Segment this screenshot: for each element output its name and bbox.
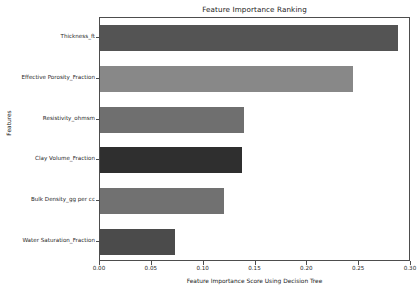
x-tick-label-5: 0.20	[300, 265, 312, 271]
x-tick-mark-1	[99, 261, 100, 265]
bar-fill	[100, 66, 353, 92]
x-tick-label-6: 0.25	[352, 265, 364, 271]
x-tick-mark-5	[306, 261, 307, 265]
y-axis-label: Features	[6, 93, 12, 153]
x-tick-label-4: 0.15	[248, 265, 260, 271]
bar-6[interactable]	[100, 229, 175, 255]
y-tick-label-3: Resistivity_ohmsm	[43, 116, 95, 122]
x-tick-mark-7	[410, 261, 411, 265]
plot-area	[99, 17, 410, 261]
matplotlib-figure: Feature Importance Ranking Feature Impor…	[0, 0, 420, 297]
y-tick-mark-6	[96, 241, 100, 242]
y-tick-mark-2	[96, 78, 100, 79]
bar-2[interactable]	[100, 66, 353, 92]
y-tick-label-6: Water Saturation_Fraction	[22, 238, 95, 244]
x-tick-label-1: 0.00	[93, 265, 105, 271]
bar-1[interactable]	[100, 25, 398, 51]
bar-3[interactable]	[100, 107, 244, 133]
bar-fill	[100, 188, 224, 214]
y-tick-label-1: Thickness_ft	[60, 34, 95, 40]
x-tick-label-7: 0.30	[404, 265, 416, 271]
chart-title: Feature Importance Ranking	[99, 5, 410, 14]
bar-fill	[100, 25, 398, 51]
bar-fill	[100, 107, 244, 133]
x-tick-mark-3	[203, 261, 204, 265]
y-tick-mark-5	[96, 200, 100, 201]
x-tick-label-3: 0.10	[196, 265, 208, 271]
y-tick-mark-1	[96, 37, 100, 38]
x-axis-label: Feature Importance Score Using Decision …	[99, 278, 410, 284]
x-tick-mark-6	[358, 261, 359, 265]
y-tick-label-5: Bulk Density_gg per cc	[31, 197, 95, 203]
bar-4[interactable]	[100, 147, 242, 173]
x-tick-mark-4	[255, 261, 256, 265]
bar-5[interactable]	[100, 188, 224, 214]
x-tick-label-2: 0.05	[145, 265, 157, 271]
y-tick-label-4: Clay Volume_Fraction	[35, 156, 95, 162]
y-tick-label-2: Effective Porosity_Fraction	[22, 75, 95, 81]
bar-fill	[100, 147, 242, 173]
bar-fill	[100, 229, 175, 255]
x-tick-mark-2	[151, 261, 152, 265]
y-tick-mark-3	[96, 119, 100, 120]
y-tick-mark-4	[96, 159, 100, 160]
